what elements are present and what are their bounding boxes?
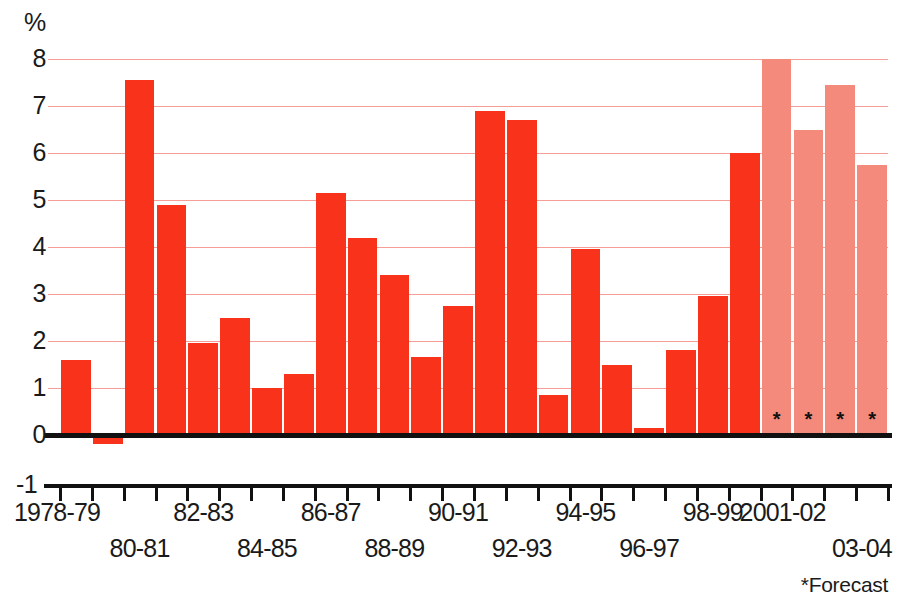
x-axis-tick-label: 96-97 [619,536,679,561]
x-axis-tick [505,488,508,501]
x-axis-tick [537,488,540,501]
bar [188,343,218,435]
x-axis-tick-label: 86-87 [301,500,361,525]
bar [61,360,91,435]
x-axis-tick [155,488,158,501]
x-axis-tick-label: 98-99 [683,500,743,525]
y-axis-tick [48,341,60,342]
bar [762,59,792,435]
x-axis-tick [887,488,890,501]
bar [857,165,887,435]
bar [602,365,632,436]
x-axis-tick-label: 90-91 [428,500,488,525]
forecast-footnote: *Forecast [801,574,888,595]
y-axis-tick-label: 4 [16,234,46,259]
y-axis-tick [48,200,60,201]
forecast-asterisk: * [794,409,824,429]
bar [348,238,378,435]
bar [157,205,187,435]
bar [125,80,155,435]
bar [666,350,696,435]
y-axis-tick [48,106,60,107]
y-axis-tick [48,153,60,154]
x-axis-tick [664,488,667,501]
bar [443,306,473,435]
bar [475,111,505,435]
y-axis-label-minus-one: -1 [16,472,37,497]
y-axis-tick-label: 3 [16,281,46,306]
bar [380,275,410,435]
y-axis-tick [48,59,60,60]
forecast-asterisk: * [762,409,792,429]
x-axis-tick [855,488,858,501]
y-axis-tick [48,388,60,389]
bar [220,318,250,436]
y-axis-tick [48,247,60,248]
x-axis-tick [123,488,126,501]
bar [794,130,824,436]
y-axis-tick-label: 1 [16,375,46,400]
x-axis-tick [409,488,412,501]
y-axis-tick-label: 7 [16,93,46,118]
y-axis-tick-label: 0 [16,422,46,447]
zero-baseline [44,433,892,438]
bar [252,388,282,435]
y-axis-tick-label: 6 [16,140,46,165]
y-axis-tick [48,294,60,295]
bar [730,153,760,435]
x-axis-tick-label: 80-81 [110,536,170,561]
x-axis-tick-label: 1978-79 [14,500,100,525]
x-axis-tick [377,488,380,501]
bar [284,374,314,435]
bar [411,357,441,435]
bar-chart: % -1 1978-7980-8182-8384-8586-8788-8990-… [0,0,906,612]
x-axis-tick-label: 94-95 [555,500,615,525]
x-axis-tick-label: 03-04 [832,536,892,561]
x-axis-tick [250,488,253,501]
bar [571,249,601,435]
bar [825,85,855,435]
y-axis-tick-label: 2 [16,328,46,353]
x-axis-tick-label: 92-93 [492,536,552,561]
x-axis-line [44,484,892,488]
y-axis-unit-label: % [24,10,46,35]
bar [316,193,346,435]
x-axis-tick [632,488,635,501]
bars-layer [60,59,888,435]
bar [698,296,728,435]
forecast-asterisk: * [825,409,855,429]
forecast-asterisk: * [857,409,887,429]
bar [539,395,569,435]
x-axis-tick-label: 84-85 [237,536,297,561]
y-axis-tick-label: 8 [16,46,46,71]
x-axis-tick [282,488,285,501]
x-axis-tick-label: 88-89 [364,536,424,561]
x-axis-tick-label: 2001-02 [740,500,826,525]
y-axis-tick-label: 5 [16,187,46,212]
bar [507,120,537,435]
x-axis-tick-label: 82-83 [173,500,233,525]
